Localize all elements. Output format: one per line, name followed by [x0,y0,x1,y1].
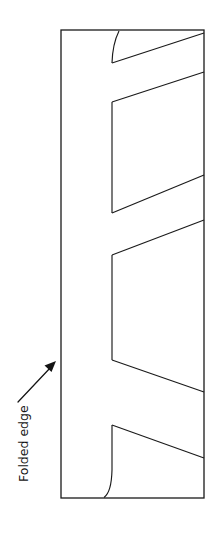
folded-panel-outline [61,30,204,498]
folded-edge-label: Folded edge [18,405,31,482]
folded-edge-arrow-shaft [18,367,51,402]
folded-edge-diagram [0,0,218,533]
figure-root: Folded edge [0,0,218,533]
folded-edge-arrow-head [45,361,57,372]
